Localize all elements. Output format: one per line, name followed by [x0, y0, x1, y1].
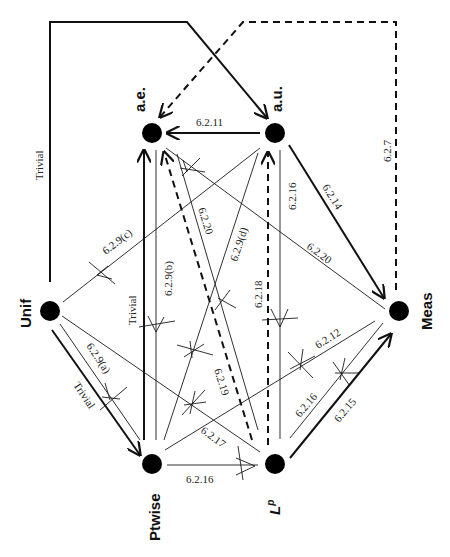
node-label-unif: Unif	[17, 298, 34, 328]
edge-label-meas-lp: 6.2.16	[292, 390, 319, 419]
edge-lp-to-ae: 6.2.19	[164, 152, 252, 440]
edge-ptwise-to-lp: 6.2.16	[167, 446, 258, 485]
node-label-lp-sup: p	[265, 500, 276, 507]
node-ptwise: Ptwise	[142, 454, 163, 541]
edge-label-ptwise-lp: 6.2.16	[186, 473, 214, 485]
edge-ptwise-to-ae: Trivial	[126, 150, 144, 440]
edge-lp-to-au: 6.2.18	[252, 152, 268, 445]
node-unif: Unif	[17, 298, 60, 328]
node-lp: Lp	[265, 454, 285, 515]
edge-label-meas-ae: 6.2.7	[381, 140, 393, 163]
edge-label-ptwise-meas: 6.2.12	[313, 326, 343, 351]
edge-label-lp-meas: 6.2.15	[331, 395, 358, 424]
edge-label-ae-lp: 6.2.20	[196, 206, 216, 236]
node-label-ae: a.e.	[131, 87, 148, 112]
edge-label-ptwise-ae: Trivial	[126, 295, 138, 325]
edge-label-unif-ptwise: Trivial	[71, 379, 97, 410]
node-label-meas: Meas	[418, 292, 435, 330]
node-meas: Meas	[389, 292, 435, 330]
edge-label-unif-au: Trivial	[33, 150, 45, 180]
edge-label-unif-au-c: 6.2.9(c)	[100, 226, 135, 258]
edge-label-au-ae: 6.2.11	[196, 116, 223, 128]
node-au: a.u.	[265, 86, 285, 143]
edge-label-lp-au: 6.2.18	[252, 280, 264, 308]
edge-ae-to-lp: 6.2.20	[177, 154, 258, 430]
edge-unif-to-ptwise-a: 6.2.9(a)	[60, 324, 140, 440]
edge-meas-to-ae: 6.2.7	[160, 22, 396, 290]
node-label-au: a.u.	[268, 86, 285, 112]
edge-label-ptwise-au: 6.2.9(d)	[227, 225, 250, 262]
node-label-ptwise: Ptwise	[146, 493, 163, 541]
edge-au-to-ae: 6.2.11	[167, 116, 260, 133]
edge-label-au-meas: 6.2.14	[320, 182, 345, 212]
edge-label-ae-ptwise: 6.2.9(b)	[162, 261, 175, 296]
edge-label-au-lp: 6.2.16	[286, 182, 298, 210]
node-ae: a.e.	[131, 87, 162, 143]
edge-label-unif-ptwise-a: 6.2.9(a)	[84, 340, 114, 376]
edge-label-lp-ae: 6.2.19	[212, 367, 232, 397]
implication-diagram: Trivial 6.2.7 6.2.11 6.2.14 6.2.20 6.2.1…	[0, 0, 450, 557]
node-label-lp: Lp	[265, 500, 283, 515]
node-label-lp-base: L	[266, 506, 283, 515]
edge-au-to-meas: 6.2.14	[289, 145, 384, 298]
